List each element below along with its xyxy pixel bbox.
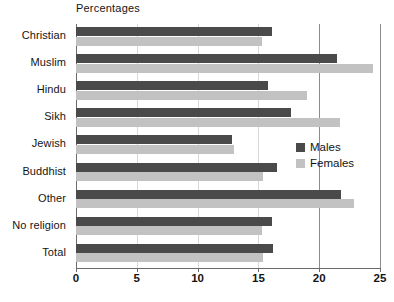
- y-axis-label-no-religion: No religion: [12, 219, 71, 231]
- y-axis-label-total: Total: [42, 246, 71, 258]
- y-axis-label-jewish: Jewish: [32, 137, 71, 149]
- y-axis-label-buddhist: Buddhist: [22, 165, 71, 177]
- x-tick-label-25: 25: [374, 272, 387, 284]
- bar-males: [76, 27, 272, 36]
- bar-group: [76, 78, 380, 105]
- gridline-25: [380, 24, 381, 268]
- x-tick-25: [380, 268, 381, 272]
- y-axis-label-sikh: Sikh: [44, 110, 71, 122]
- legend-label-males: Males: [310, 141, 341, 153]
- bar-females: [76, 118, 340, 127]
- bar-group: [76, 187, 380, 214]
- y-axis-label-hindu: Hindu: [37, 83, 71, 95]
- x-axis-tick-labels: 0510152025: [76, 272, 380, 292]
- x-tick-10: [198, 268, 199, 272]
- bar-males: [76, 190, 341, 199]
- bar-group: [76, 51, 380, 78]
- bar-group: [76, 24, 380, 51]
- legend-item-males: Males: [296, 139, 380, 155]
- bar-females: [76, 145, 234, 154]
- bar-females: [76, 226, 262, 235]
- bar-males: [76, 81, 268, 90]
- females-swatch-icon: [296, 159, 305, 168]
- chart-title: Percentages: [76, 2, 140, 14]
- bar-females: [76, 37, 262, 46]
- y-axis-tick-labels: ChristianMuslimHinduSikhJewishBuddhistOt…: [0, 24, 71, 268]
- x-tick-0: [76, 268, 77, 272]
- bar-males: [76, 163, 277, 172]
- x-tick-label-15: 15: [252, 272, 265, 284]
- x-tick-label-20: 20: [313, 272, 326, 284]
- x-tick-20: [319, 268, 320, 272]
- bar-females: [76, 91, 307, 100]
- bar-males: [76, 217, 272, 226]
- bar-group: [76, 214, 380, 241]
- x-tick-label-0: 0: [73, 272, 79, 284]
- bar-group: [76, 241, 380, 268]
- y-axis-label-muslim: Muslim: [31, 56, 71, 68]
- males-swatch-icon: [296, 143, 305, 152]
- bar-males: [76, 54, 337, 63]
- bar-males: [76, 244, 273, 253]
- bar-females: [76, 172, 263, 181]
- bar-males: [76, 135, 232, 144]
- bar-females: [76, 64, 373, 73]
- chart-legend: Males Females: [296, 139, 380, 171]
- y-axis-label-christian: Christian: [22, 29, 71, 41]
- bar-females: [76, 199, 354, 208]
- legend-label-females: Females: [310, 157, 354, 169]
- bar-females: [76, 253, 263, 262]
- x-tick-label-5: 5: [134, 272, 140, 284]
- bar-group: [76, 105, 380, 132]
- x-axis-line: [76, 268, 381, 269]
- x-tick-label-10: 10: [191, 272, 204, 284]
- x-tick-5: [137, 268, 138, 272]
- x-tick-15: [258, 268, 259, 272]
- bar-males: [76, 108, 291, 117]
- y-axis-label-other: Other: [38, 192, 71, 204]
- legend-item-females: Females: [296, 155, 380, 171]
- percentages-bar-chart: Percentages ChristianMuslimHinduSikhJewi…: [0, 0, 394, 302]
